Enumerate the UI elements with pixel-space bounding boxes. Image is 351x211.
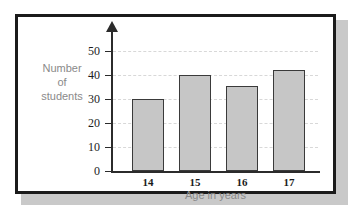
bar-age-15 [179, 75, 211, 171]
x-axis-line [111, 171, 320, 173]
ytick-label-50-wrap: 50 [56, 45, 100, 57]
y-axis-arrow-icon [106, 21, 118, 32]
y-axis-title-line-1: Number [26, 61, 98, 75]
ytick-label-10-wrap: 10 [56, 141, 100, 153]
ytick-label-0-wrap: 0 [56, 165, 100, 177]
plot-area: 50 40 30 20 10 0 [18, 17, 339, 197]
xtick-label-16: 16 [222, 176, 262, 188]
y-axis-title-line-2: of [26, 75, 98, 89]
ytick-label-20-wrap: 20 [56, 117, 100, 129]
x-axis-title: Age in years [111, 189, 320, 201]
y-axis-title-line-3: students [26, 89, 98, 103]
ytick-label-10: 10 [60, 141, 100, 153]
y-axis-line [111, 29, 113, 172]
bar-age-14 [132, 99, 164, 171]
bar-age-17 [273, 70, 305, 171]
xtick-label-14: 14 [128, 176, 168, 188]
gridline-50 [113, 51, 318, 52]
ytick-label-0: 0 [60, 165, 100, 177]
y-axis-title: Number of students [26, 61, 98, 103]
ytick-label-20: 20 [60, 117, 100, 129]
xtick-label-15: 15 [175, 176, 215, 188]
chart-figure: 50 40 30 20 10 0 [0, 0, 351, 211]
bar-age-16 [226, 86, 258, 171]
chart-frame: 50 40 30 20 10 0 [15, 14, 336, 194]
ytick-label-50: 50 [60, 45, 100, 57]
xtick-label-17: 17 [269, 176, 309, 188]
